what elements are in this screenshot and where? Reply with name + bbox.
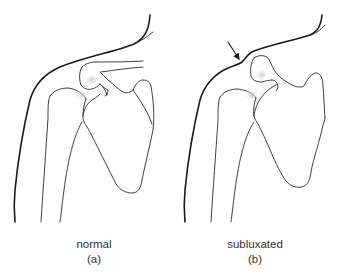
caption-tag-a: (a) <box>34 252 154 266</box>
panel-subluxated-shoulder <box>170 0 339 225</box>
caption-tag-b: (b) <box>195 252 315 266</box>
clavicle-lower <box>101 67 143 72</box>
humerus-lateral <box>41 96 50 222</box>
humerus-lateral <box>211 97 220 222</box>
skin-contour <box>14 15 150 222</box>
skin-contour <box>184 15 322 222</box>
scapula <box>254 98 325 187</box>
humerus-medial <box>60 122 82 222</box>
humerus-medial <box>231 122 254 222</box>
scapula-spine <box>133 90 152 124</box>
arrow-icon <box>228 42 239 59</box>
clavicle-upper <box>96 61 143 62</box>
humeral-head-shading <box>240 90 256 100</box>
coracoid <box>100 84 108 96</box>
normal-shoulder-illustration <box>0 0 170 225</box>
neck-line <box>134 32 153 44</box>
caption-subluxated: subluxated <box>195 237 315 251</box>
humeral-head-shading <box>70 90 86 100</box>
panel-normal-shoulder <box>0 0 170 225</box>
subluxated-shoulder-illustration <box>170 0 339 225</box>
acromion-shading <box>250 69 266 81</box>
caption-normal: normal <box>34 237 154 251</box>
glenoid-edge <box>254 84 278 116</box>
acromion-shading <box>80 74 96 86</box>
scapula <box>83 72 154 193</box>
acromion <box>254 56 325 118</box>
